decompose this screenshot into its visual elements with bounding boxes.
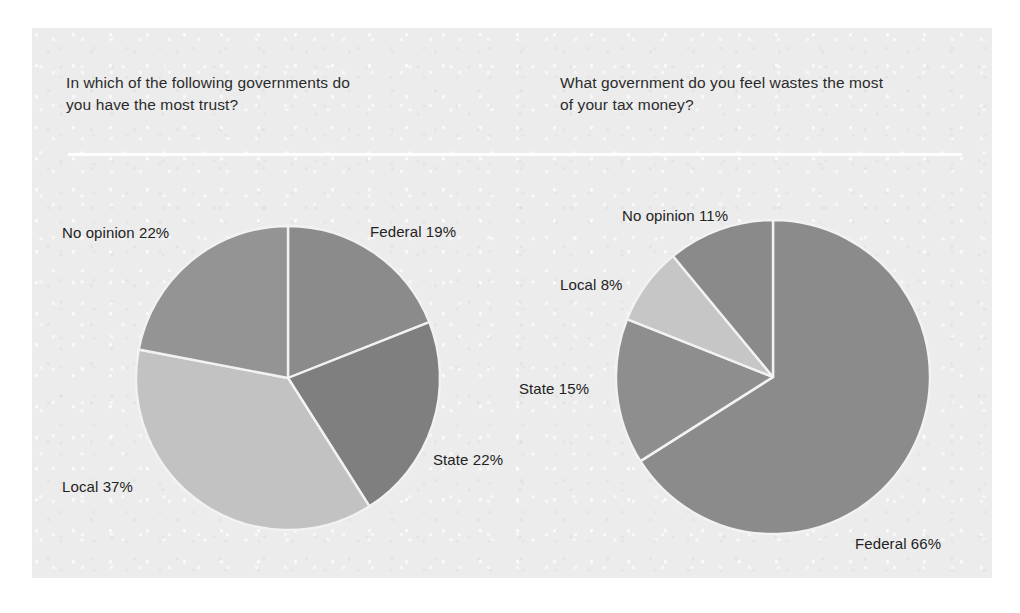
trust-chart-label-federal: Federal 19% — [370, 223, 456, 240]
waste-chart-label-state: State 15% — [519, 380, 589, 397]
trust-chart — [136, 226, 440, 530]
waste-chart-label-local: Local 8% — [560, 276, 623, 293]
trust-chart-label-local: Local 37% — [62, 478, 133, 495]
trust-chart-label-state: State 22% — [433, 451, 503, 468]
pie-charts-layer — [0, 0, 1020, 613]
poll-figure: In which of the following governments do… — [0, 0, 1020, 613]
waste-chart-label-no-opinion: No opinion 11% — [622, 207, 728, 224]
trust-chart-label-no-opinion: No opinion 22% — [62, 224, 169, 241]
waste-chart-label-federal: Federal 66% — [855, 535, 941, 552]
waste-chart — [616, 220, 930, 534]
